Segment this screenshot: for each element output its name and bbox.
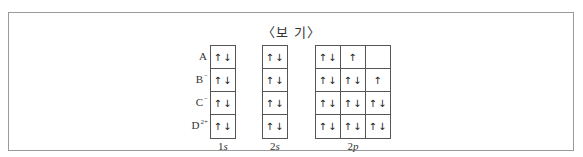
orbital-box-2s-a: ↑↓ bbox=[263, 46, 287, 69]
orbital-box-2p-b-3: ↑ bbox=[366, 69, 390, 92]
orbital-box-2p-d-2: ↑↓ bbox=[341, 115, 366, 138]
orbital-box-2s-d: ↑↓ bbox=[263, 115, 287, 138]
orbital-box-2p-c-1: ↑↓ bbox=[316, 92, 341, 115]
column-label-2s: 2s bbox=[262, 140, 288, 152]
orbital-box-1s-c: ↑↓ bbox=[211, 92, 235, 115]
orbital-box-2p-a-2: ↑ bbox=[341, 46, 366, 69]
orbital-box-2p-a-3 bbox=[366, 46, 390, 69]
box-title: 〈보 기〉 bbox=[0, 22, 583, 41]
orbital-column-1s: ↑↓ ↑↓ ↑↓ ↑↓ bbox=[210, 45, 236, 139]
orbital-box-2p-c-2: ↑↓ bbox=[341, 92, 366, 115]
row-label-a: A bbox=[186, 49, 208, 62]
orbital-column-2s: ↑↓ ↑↓ ↑↓ ↑↓ bbox=[262, 45, 288, 139]
orbital-box-1s-d: ↑↓ bbox=[211, 115, 235, 138]
orbital-box-2s-c: ↑↓ bbox=[263, 92, 287, 115]
row-label-c: C− bbox=[186, 95, 208, 108]
column-label-1s: 1s bbox=[210, 140, 236, 152]
orbital-box-2s-b: ↑↓ bbox=[263, 69, 287, 92]
orbital-box-2p-b-2: ↑↓ bbox=[341, 69, 366, 92]
orbital-box-2p-a-1: ↑↓ bbox=[316, 46, 341, 69]
orbital-box-2p-c-3: ↑↓ bbox=[366, 92, 390, 115]
orbital-box-2p-d-3: ↑↓ bbox=[366, 115, 390, 138]
orbital-column-2p: ↑↓ ↑ ↑↓ ↑↓ ↑ ↑↓ ↑↓ ↑↓ ↑↓ ↑↓ ↑↓ bbox=[315, 45, 391, 139]
row-label-b: B− bbox=[186, 72, 208, 85]
orbital-box-1s-b: ↑↓ bbox=[211, 69, 235, 92]
column-label-2p: 2p bbox=[315, 140, 391, 152]
orbital-box-1s-a: ↑↓ bbox=[211, 46, 235, 69]
orbital-box-2p-d-1: ↑↓ bbox=[316, 115, 341, 138]
orbital-box-2p-b-1: ↑↓ bbox=[316, 69, 341, 92]
row-label-d: D2+ bbox=[186, 118, 208, 131]
